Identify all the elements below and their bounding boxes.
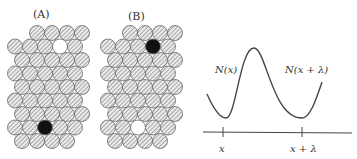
atom [45,26,60,41]
atom [68,93,83,108]
atom [146,120,161,135]
atom [75,26,90,41]
label-n-x: N(x) [214,64,237,75]
atom [101,66,116,81]
atom [161,93,176,108]
atom [116,39,131,54]
atom [168,80,183,95]
atom [161,39,176,54]
atom [30,53,45,68]
atom [53,66,68,81]
atom [108,53,123,68]
label-n-x-lambda: N(x + λ) [284,64,328,75]
atom [45,53,60,68]
atom [30,134,45,149]
atom [108,107,123,122]
x-axis [203,132,352,133]
atom [123,26,138,41]
atom [138,134,153,149]
atom [60,53,75,68]
atom [15,53,30,68]
atom [116,120,131,135]
atom [45,80,60,95]
atom [60,80,75,95]
atom [75,107,90,122]
atom [8,120,23,135]
atom [30,107,45,122]
atom [161,120,176,135]
atom [53,120,68,135]
atom [60,134,75,149]
atom [168,53,183,68]
atom [30,80,45,95]
atom [68,120,83,135]
atom [138,107,153,122]
atom [60,26,75,41]
atom [75,80,90,95]
atom [108,134,123,149]
atom [38,39,53,54]
atom [168,26,183,41]
atom [101,93,116,108]
atom [123,80,138,95]
atom [123,53,138,68]
vacancy [131,120,146,135]
impurity-atom [38,120,53,135]
atom [123,134,138,149]
atom [153,80,168,95]
panel-a-label: (A) [33,8,50,21]
atom [23,120,38,135]
atom [131,66,146,81]
atom [8,66,23,81]
potential-curve [207,48,322,118]
atom [8,93,23,108]
atom [38,66,53,81]
atom [23,93,38,108]
atom [45,134,60,149]
tick-label-x: x [219,143,225,154]
diagram-canvas: (A) (B) N(x) N(x + λ) x x + λ [0,0,357,159]
atom [116,93,131,108]
atom [53,93,68,108]
lattice-panel-a [8,26,90,149]
atom [75,53,90,68]
atom [101,120,116,135]
atom [15,134,30,149]
atom [8,39,23,54]
vacancy [53,39,68,54]
atom [23,39,38,54]
tick-label-x-lambda: x + λ [290,143,317,154]
atom [23,66,38,81]
atom [153,53,168,68]
atom [108,80,123,95]
atom [146,66,161,81]
atom [15,107,30,122]
atom [161,66,176,81]
atom [38,93,53,108]
atom [101,39,116,54]
atom [45,107,60,122]
atom [116,66,131,81]
atom [131,39,146,54]
atom [146,93,161,108]
atom [168,107,183,122]
atom [138,26,153,41]
atom [138,80,153,95]
atom [153,107,168,122]
atom [68,39,83,54]
atom [131,93,146,108]
atom [68,66,83,81]
atom [138,53,153,68]
atom [153,26,168,41]
atom [15,80,30,95]
lattice-panel-b [101,26,183,149]
atom [30,26,45,41]
atom [153,134,168,149]
impurity-atom [146,39,161,54]
atom [123,107,138,122]
atom [60,107,75,122]
panel-b-label: (B) [128,10,145,23]
